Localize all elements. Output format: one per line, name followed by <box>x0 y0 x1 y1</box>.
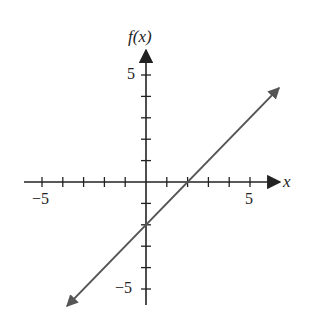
y-tick-label-5: 5 <box>127 65 135 82</box>
x-tick-label-5: 5 <box>245 190 253 207</box>
x-axis-label: x <box>282 172 291 191</box>
y-axis-label: f(x) <box>128 27 152 46</box>
y-tick-label-neg5: −5 <box>115 279 132 296</box>
x-tick-label-neg5: −5 <box>32 190 49 207</box>
function-graph: f(x) x −5 5 5 −5 <box>0 0 315 324</box>
